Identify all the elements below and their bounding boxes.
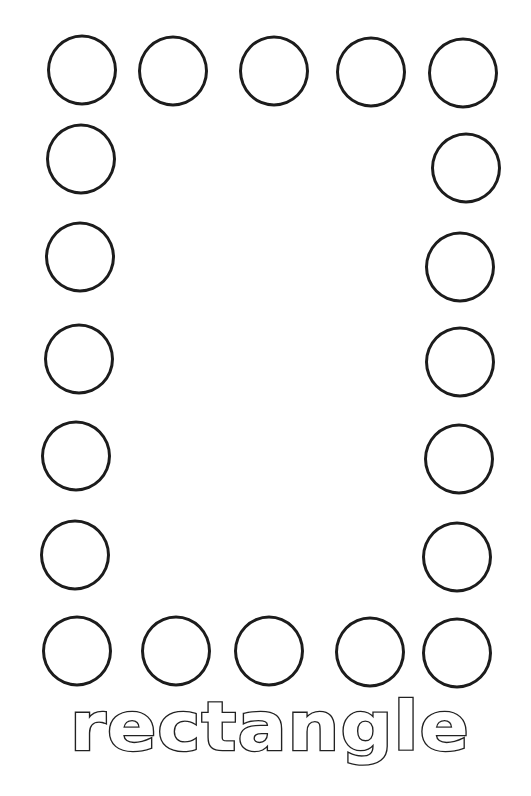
worksheet-page: rectangle bbox=[0, 0, 531, 796]
shape-label: rectangle bbox=[0, 0, 531, 796]
shape-label-text: rectangle bbox=[70, 687, 470, 766]
